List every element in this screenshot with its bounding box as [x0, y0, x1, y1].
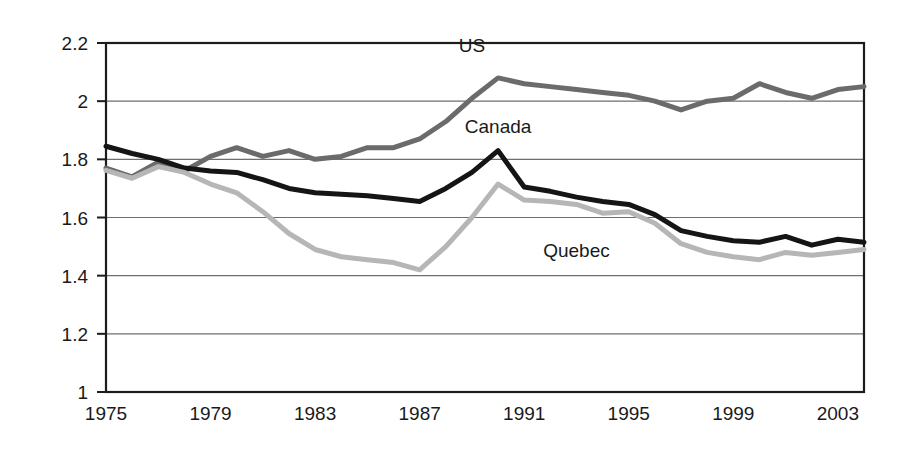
chart-container: 11.21.41.61.822.2 1975197919831987199119…	[0, 0, 907, 459]
series-label-canada: Canada	[465, 116, 532, 137]
x-tick-label: 1979	[189, 403, 231, 424]
chart-background	[0, 0, 907, 459]
y-tick-label: 1.8	[62, 149, 88, 170]
x-tick-label: 1991	[503, 403, 545, 424]
series-label-us: US	[459, 35, 485, 56]
y-tick-label: 1.2	[62, 324, 88, 345]
y-tick-label: 2.2	[62, 33, 88, 54]
x-tick-label: 1999	[712, 403, 754, 424]
series-label-quebec: Quebec	[543, 240, 610, 261]
x-tick-label: 1983	[294, 403, 336, 424]
x-tick-label: 1995	[608, 403, 650, 424]
fertility-rate-line-chart: 11.21.41.61.822.2 1975197919831987199119…	[0, 0, 907, 459]
y-tick-label: 1.4	[62, 266, 89, 287]
y-tick-label: 1	[77, 382, 88, 403]
x-tick-label: 2003	[817, 403, 859, 424]
x-tick-label: 1987	[399, 403, 441, 424]
x-tick-label: 1975	[85, 403, 127, 424]
y-tick-label: 2	[77, 91, 88, 112]
y-tick-label: 1.6	[62, 208, 88, 229]
